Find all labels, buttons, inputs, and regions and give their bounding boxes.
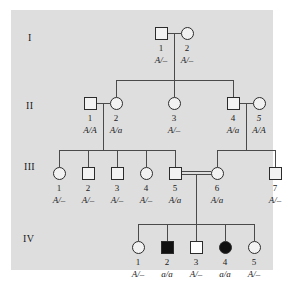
individual-iv4-genotype: a/a (210, 269, 240, 279)
individual-iii7-symbol (269, 167, 282, 180)
individual-ii3-symbol (168, 97, 181, 110)
individual-ii4-symbol (227, 97, 240, 110)
individual-ii2-genotype: A/a (101, 125, 131, 135)
sibship-bar-gen3-right (217, 150, 275, 151)
individual-i1-number: 1 (148, 43, 174, 53)
individual-iv3-genotype: A/– (181, 269, 211, 279)
sib-drop-iii2 (88, 150, 89, 167)
sib-drop-iv3 (196, 224, 197, 241)
individual-iv5-number: 5 (241, 257, 267, 267)
individual-iii7-number: 7 (262, 183, 284, 193)
individual-iii6-symbol (211, 167, 224, 180)
individual-ii3-number: 3 (161, 113, 187, 123)
sib-drop-iii4 (146, 150, 147, 167)
individual-ii3-genotype: A/– (159, 125, 189, 135)
sib-drop-iv1 (138, 224, 139, 241)
generation-label-ii: II (26, 100, 33, 111)
sib-drop-iii7 (275, 150, 276, 167)
individual-iv2-genotype: a/a (152, 269, 182, 279)
individual-iv4-symbol (219, 241, 232, 254)
individual-iv5-genotype: A/– (239, 269, 269, 279)
individual-iii5-number: 5 (162, 183, 188, 193)
individual-ii5-number: 5 (246, 113, 272, 123)
sib-drop-iv5 (254, 224, 255, 241)
individual-i2-number: 2 (174, 43, 200, 53)
individual-i2-symbol (181, 27, 194, 40)
individual-iv3-number: 3 (183, 257, 209, 267)
generation-label-iii: III (24, 161, 35, 172)
individual-iv1-genotype: A/– (123, 269, 153, 279)
individual-i1-symbol (155, 27, 168, 40)
descent-line-iii5-iii6 (196, 174, 197, 224)
individual-iii6-genotype: A/a (202, 195, 232, 205)
sib-drop-iv2 (167, 224, 168, 241)
individual-ii5-genotype: A/A (244, 125, 274, 135)
sib-drop-iii5 (175, 150, 176, 167)
sib-drop-iv4 (225, 224, 226, 241)
individual-iv2-symbol (161, 241, 174, 254)
individual-iii3-genotype: A/– (102, 195, 132, 205)
individual-iii5-genotype: A/a (160, 195, 190, 205)
individual-iii7-genotype: A/– (260, 195, 284, 205)
individual-iii2-number: 2 (75, 183, 101, 193)
sib-drop-ii4 (233, 80, 234, 97)
individual-iii1-number: 1 (46, 183, 72, 193)
individual-iii2-symbol (82, 167, 95, 180)
individual-ii2-number: 2 (103, 113, 129, 123)
sib-drop-iii6 (217, 150, 218, 167)
individual-ii4-number: 4 (220, 113, 246, 123)
mating-line-iii5-iii6-upper (182, 171, 211, 172)
individual-ii1-symbol (84, 97, 97, 110)
individual-iii4-number: 4 (133, 183, 159, 193)
individual-iii2-genotype: A/– (73, 195, 103, 205)
individual-iii3-number: 3 (104, 183, 130, 193)
individual-ii1-number: 1 (77, 113, 103, 123)
individual-iii3-symbol (111, 167, 124, 180)
individual-iv5-symbol (248, 241, 261, 254)
generation-label-iv: IV (23, 233, 34, 244)
individual-iii5-symbol (169, 167, 182, 180)
sib-drop-ii3 (174, 80, 175, 97)
individual-iv1-symbol (132, 241, 145, 254)
individual-iv1-number: 1 (125, 257, 151, 267)
generation-label-i: I (28, 32, 32, 43)
individual-ii5-symbol (253, 97, 266, 110)
pedigree-panel: I II III IV 1 2 A/– A/– 1 2 (11, 10, 273, 270)
individual-iii4-symbol (140, 167, 153, 180)
pedigree-figure: I II III IV 1 2 A/– A/– 1 2 (0, 0, 284, 284)
individual-iii6-number: 6 (204, 183, 230, 193)
individual-iv2-number: 2 (154, 257, 180, 267)
individual-i2-genotype: A/– (172, 55, 202, 65)
individual-iii1-genotype: A/– (44, 195, 74, 205)
individual-iv4-number: 4 (212, 257, 238, 267)
individual-iv3-symbol (190, 241, 203, 254)
individual-iii4-genotype: A/– (131, 195, 161, 205)
sib-drop-iii3 (117, 150, 118, 167)
individual-ii2-symbol (110, 97, 123, 110)
sib-drop-iii1 (59, 150, 60, 167)
individual-iii1-symbol (53, 167, 66, 180)
sib-drop-ii2 (116, 80, 117, 97)
